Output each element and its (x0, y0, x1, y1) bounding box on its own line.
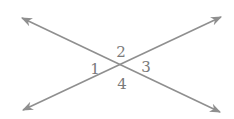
line-b-with-arrows (23, 17, 221, 110)
angle-label-3: 3 (141, 58, 151, 76)
angle-label-4: 4 (117, 75, 127, 93)
angle-label-1: 1 (90, 60, 100, 78)
angle-label-2: 2 (116, 43, 126, 61)
intersecting-lines-diagram: 1234 (0, 0, 234, 119)
